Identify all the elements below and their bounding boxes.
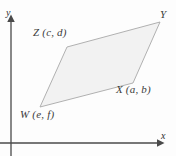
vertex-label-z: Z (c, d): [33, 27, 67, 38]
vertex-label-x: X (a, b): [116, 84, 151, 95]
x-axis-label: x: [161, 131, 165, 141]
vertex-label-y: Y: [160, 9, 166, 20]
y-axis-label: y: [6, 8, 10, 18]
coordinate-plane-canvas: [0, 0, 176, 156]
vertex-label-w: W (e, f): [20, 109, 54, 120]
geometry-figure: Z (c, d) Y X (a, b) W (e, f) y x: [0, 0, 176, 156]
